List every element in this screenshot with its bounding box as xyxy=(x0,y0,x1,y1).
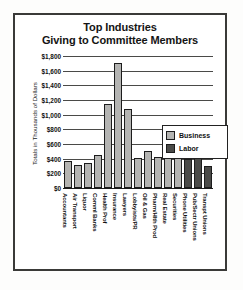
bar-column[interactable] xyxy=(83,56,93,188)
bar-column[interactable] xyxy=(103,56,113,188)
bar-series-container xyxy=(63,56,213,188)
x-tick-label: Pharm/Hlth Prod xyxy=(152,193,158,238)
bar-column[interactable] xyxy=(123,56,133,188)
y-tick-label: $1,400 xyxy=(41,82,61,89)
legend-item[interactable]: Labor xyxy=(166,142,224,155)
chart-title: Top Industries xyxy=(15,21,225,34)
y-tick-label: $200 xyxy=(47,170,61,177)
axis-area xyxy=(63,56,213,188)
legend-swatch-business xyxy=(166,131,175,140)
legend-label: Labor xyxy=(179,145,198,152)
legend-label: Business xyxy=(179,132,210,139)
bar-column[interactable] xyxy=(73,56,83,188)
bar-business[interactable] xyxy=(104,104,112,188)
y-tick-label: $0 xyxy=(54,185,61,192)
x-axis-tick-labels: AccountantsAir TransportLiquorComml Bank… xyxy=(63,191,213,265)
plot-area: Totals in Thousands of Dollars $1,800$1,… xyxy=(15,56,225,271)
chart-subtitle: Giving to Committee Members xyxy=(15,34,225,47)
bar-business[interactable] xyxy=(154,157,162,188)
y-tick-label: $1,200 xyxy=(41,97,61,104)
bar-column[interactable] xyxy=(133,56,143,188)
bar-business[interactable] xyxy=(134,158,142,188)
bar-business[interactable] xyxy=(64,161,72,188)
chart-title-block: Top Industries Giving to Committee Membe… xyxy=(15,21,225,47)
bar-column[interactable] xyxy=(93,56,103,188)
x-tick-label: Lobbyists/PR xyxy=(132,193,138,230)
legend-swatch-labor xyxy=(166,144,175,153)
x-tick-label: Lawyers xyxy=(122,193,128,216)
x-tick-label: Securities xyxy=(172,193,178,220)
bar-column[interactable] xyxy=(203,56,213,188)
bar-column[interactable] xyxy=(63,56,73,188)
bar-business[interactable] xyxy=(74,165,82,188)
y-tick-label: $1,000 xyxy=(41,111,61,118)
gridline xyxy=(63,188,213,189)
bar-business[interactable] xyxy=(84,163,92,188)
x-tick-label: Liquor xyxy=(82,193,88,211)
x-tick-label: Real Estate xyxy=(162,193,168,224)
bar-column[interactable] xyxy=(193,56,203,188)
x-tick-cell: Transpt Unions xyxy=(203,191,213,265)
y-tick-label: $800 xyxy=(47,126,61,133)
bar-labor[interactable] xyxy=(204,166,212,188)
x-tick-label: Phone Utilities xyxy=(182,193,188,232)
x-tick-label: Accountants xyxy=(62,193,68,228)
bar-column[interactable] xyxy=(153,56,163,188)
y-tick-label: $400 xyxy=(47,155,61,162)
y-tick-label: $1,600 xyxy=(41,67,61,74)
bar-labor[interactable] xyxy=(184,159,192,188)
x-tick-label: Health Prof xyxy=(102,193,108,223)
bar-column[interactable] xyxy=(173,56,183,188)
chart-frame: Top Industries Giving to Committee Membe… xyxy=(13,13,227,271)
bar-column[interactable] xyxy=(113,56,123,188)
x-tick-label: Insurance xyxy=(112,193,118,220)
bar-column[interactable] xyxy=(143,56,153,188)
x-tick-label: Oil & Gas xyxy=(142,193,148,219)
bar-business[interactable] xyxy=(94,155,102,188)
x-tick-label: Pub/Sectr Unions xyxy=(192,193,198,241)
bar-business[interactable] xyxy=(114,63,122,188)
x-tick-label: Air Transport xyxy=(72,193,78,229)
y-tick-label: $600 xyxy=(47,141,61,148)
bar-column[interactable] xyxy=(183,56,193,188)
x-tick-label: Comml Banks xyxy=(92,193,98,231)
bar-business[interactable] xyxy=(144,151,152,188)
chart-legend: BusinessLabor xyxy=(162,125,228,159)
bar-business[interactable] xyxy=(124,109,132,188)
legend-item[interactable]: Business xyxy=(166,129,224,142)
bar-column[interactable] xyxy=(163,56,173,188)
y-axis-tick-labels: $1,800$1,600$1,400$1,200$1,000$800$600$4… xyxy=(23,56,61,188)
y-tick-label: $1,800 xyxy=(41,53,61,60)
x-tick-label: Transpt Unions xyxy=(202,193,208,235)
figure-root: Top Industries Giving to Committee Membe… xyxy=(0,0,243,290)
